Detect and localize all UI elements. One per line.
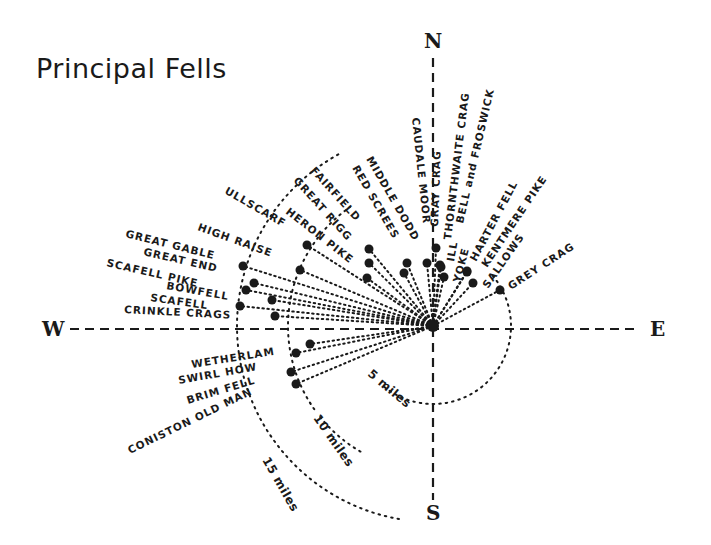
ray-brim-fell [291, 326, 433, 372]
marker-fairfield [365, 245, 374, 254]
compass-north: N [424, 29, 442, 53]
marker-crinkle-crags [271, 312, 280, 321]
marker-sallows [469, 279, 478, 288]
diagram-canvas: Principal Fells N S E W GREY CRAGSALLOWS… [0, 0, 711, 545]
marker-thornthwaite-crag [436, 261, 445, 270]
marker-ullscarf [303, 241, 312, 250]
ring-label-10-miles: 10 miles [311, 412, 357, 470]
ray-bowfell [272, 300, 433, 326]
diagram-title: Principal Fells [36, 53, 227, 84]
marker-brim-fell [287, 368, 296, 377]
ray-scafell-pike [246, 290, 433, 326]
marker-wetherlam [306, 340, 315, 349]
marker-coniston-old-man [292, 380, 301, 389]
marker-high-raise [296, 266, 305, 275]
label-crinkle-crags: CRINKLE CRAGS [124, 303, 232, 321]
marker-gray-crag [432, 244, 441, 253]
marker-yoke [440, 273, 449, 282]
marker-caudale-moor [423, 259, 432, 268]
ring-label-5-miles: 5 miles [365, 367, 414, 411]
label-ullscarf: ULLSCARF [223, 184, 288, 229]
fell-labels: GREY CRAGSALLOWSKENTMERE PIKEHARTER FELL… [106, 87, 577, 456]
ring-labels: 5 miles10 miles15 miles [259, 367, 414, 515]
marker-scafell-pike [242, 286, 251, 295]
marker-bowfell [268, 296, 277, 305]
compass-west: W [41, 317, 65, 341]
marker-scafell [236, 302, 245, 311]
compass-east: E [650, 317, 665, 341]
ray-coniston-old-man [296, 326, 433, 384]
marker-heron-pike [363, 274, 372, 283]
marker-middle-dodd [403, 259, 412, 268]
marker-great-rigg [365, 259, 374, 268]
fells-diagram: Principal Fells N S E W GREY CRAGSALLOWS… [0, 0, 711, 545]
ray-sallows [433, 283, 473, 326]
marker-swirl-how [292, 349, 301, 358]
marker-great-end [250, 279, 259, 288]
center-point [427, 320, 439, 332]
marker-grey-crag [496, 286, 505, 295]
ring-label-15-miles: 15 miles [259, 455, 302, 515]
marker-red-screes [400, 269, 409, 278]
marker-great-gable [239, 262, 248, 271]
compass-south: S [426, 501, 440, 525]
